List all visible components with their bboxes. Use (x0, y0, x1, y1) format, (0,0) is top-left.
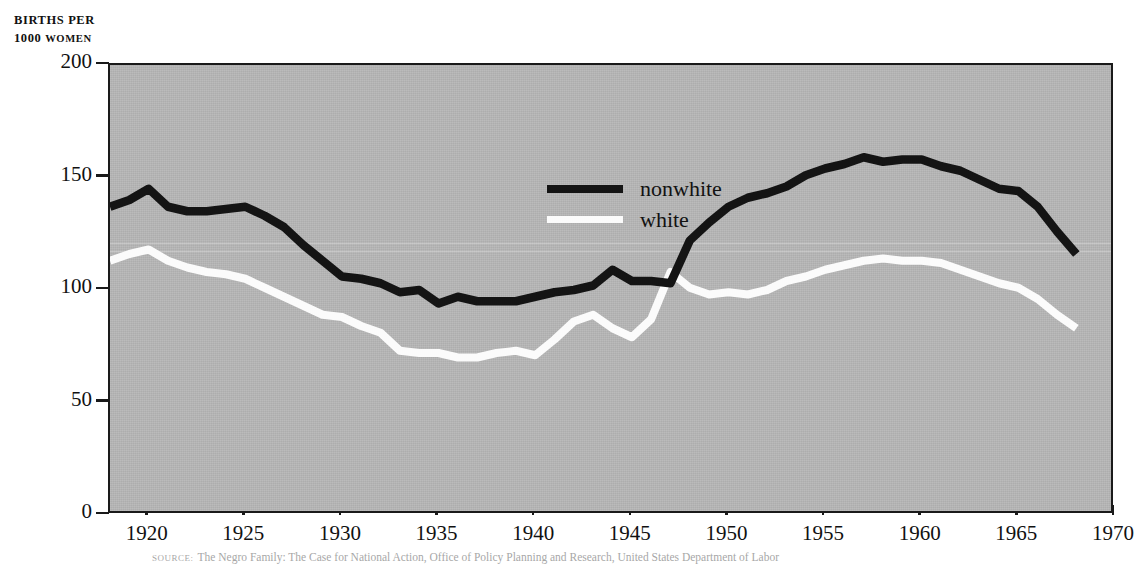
y-axis-caption-line1: BIRTHS PER (14, 11, 214, 29)
legend-label-white: white (640, 209, 689, 231)
x-tick-label: 1945 (590, 521, 670, 546)
x-tick-label: 1950 (686, 521, 766, 546)
source-label: SOURCE: (152, 553, 194, 563)
x-tick-label: 1935 (397, 521, 477, 546)
y-axis-caption-word: WOMEN (45, 33, 92, 44)
y-tick-label: 0 (6, 499, 92, 524)
series-line-white (110, 250, 1076, 358)
y-tick-label: 150 (6, 162, 92, 187)
x-tick-label: 1955 (783, 521, 863, 546)
x-tick-label: 1960 (880, 521, 960, 546)
x-tick-label: 1940 (493, 521, 573, 546)
x-tick-label: 1920 (107, 521, 187, 546)
y-tick-label: 100 (6, 274, 92, 299)
x-tick-label: 1970 (1073, 521, 1138, 546)
x-tick-label: 1925 (203, 521, 283, 546)
chart-legend: nonwhite white (547, 173, 722, 235)
y-tick-label: 200 (6, 49, 92, 74)
source-text: The Negro Family: The Case for National … (198, 551, 779, 563)
y-tick-label: 50 (6, 387, 92, 412)
y-axis-caption-number: 1000 (14, 31, 41, 45)
plot-area: nonwhite white (108, 63, 1113, 513)
legend-item-white: white (547, 204, 722, 235)
x-tick-label: 1965 (976, 521, 1056, 546)
x-tick-label: 1930 (300, 521, 380, 546)
legend-item-nonwhite: nonwhite (547, 173, 722, 204)
legend-swatch-white (547, 216, 623, 223)
legend-swatch-nonwhite (547, 185, 623, 193)
series-lines (110, 65, 1113, 513)
source-caption: SOURCE:The Negro Family: The Case for Na… (152, 551, 1112, 565)
y-axis-caption: BIRTHS PER 1000 WOMEN (14, 11, 214, 48)
y-axis-caption-line2: 1000 WOMEN (14, 29, 214, 48)
legend-label-nonwhite: nonwhite (640, 178, 722, 200)
